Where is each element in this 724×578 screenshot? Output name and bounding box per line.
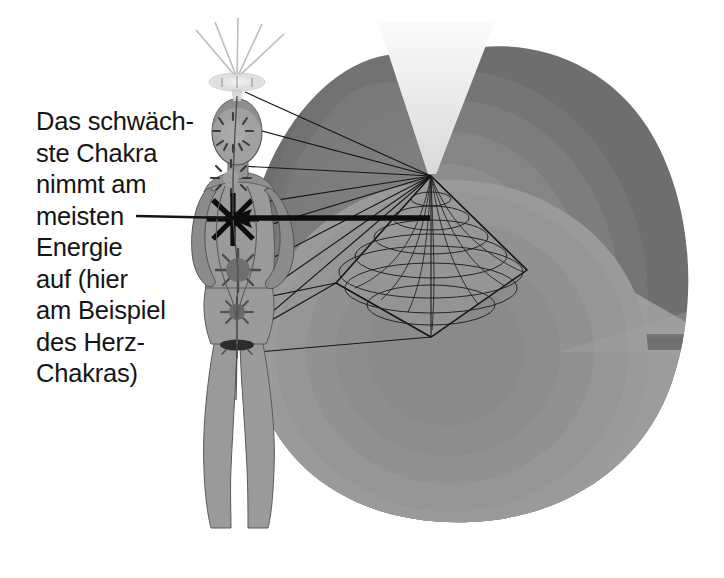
crown-rays <box>196 18 284 78</box>
figure-canvas: Das schwäch- ste Chakra nimmt am meisten… <box>0 0 724 578</box>
chakra-energy-diagram <box>0 0 724 578</box>
crown-chakra <box>196 18 284 91</box>
left-leg <box>204 338 237 528</box>
